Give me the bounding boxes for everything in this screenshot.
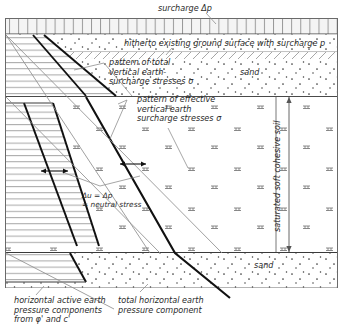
- label-sand-lower: sand: [254, 261, 273, 271]
- label-neutral-stress: Δu = Δp = neutral stress: [82, 192, 141, 209]
- label-cohesive-soil: saturated soft cohesive soil: [272, 121, 282, 232]
- caption-horizontal-active-pressure: horizontal active earth pressure compone…: [14, 296, 106, 325]
- label-pattern-total-stresses: pattern of total vertical earth- surchar…: [109, 58, 193, 87]
- label-surcharge-top: surcharge Δp: [158, 4, 212, 14]
- label-pattern-effective-stresses: pattern of effective vertical earth surc…: [137, 95, 221, 124]
- label-existing-ground-surface: hitherto existing ground surface with su…: [124, 39, 325, 49]
- diagram-svg: [0, 0, 343, 336]
- caption-total-horizontal-pressure: total horizontal earth pressure componen…: [118, 296, 204, 315]
- label-sand-upper: sand: [240, 68, 259, 78]
- figure-canvas: surcharge Δp hitherto existing ground su…: [0, 0, 343, 336]
- surcharge-load-band: [6, 19, 337, 34]
